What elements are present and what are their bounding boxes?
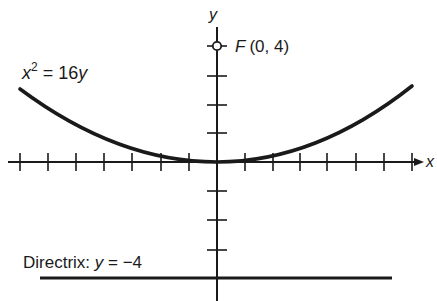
focus-label: F(0, 4) — [235, 37, 289, 56]
directrix-label: Directrix: y = −4 — [23, 253, 142, 272]
x-axis-label: x — [425, 153, 435, 170]
x-axis-arrow-icon — [414, 158, 424, 166]
directrix-text: Directrix: — [23, 253, 95, 272]
equation-y: y — [76, 63, 88, 83]
focus-point-icon — [213, 42, 221, 50]
parabola-diagram: x y F(0, 4) x2 = 16y — [0, 0, 437, 301]
equation-rest: = 16 — [38, 63, 79, 83]
focus-F: F — [235, 37, 247, 56]
focus-coords: (0, 4) — [249, 37, 289, 56]
y-axis-label: y — [208, 6, 218, 23]
equation-label: x2 = 16y — [21, 60, 88, 83]
directrix-value: = −4 — [103, 253, 142, 272]
